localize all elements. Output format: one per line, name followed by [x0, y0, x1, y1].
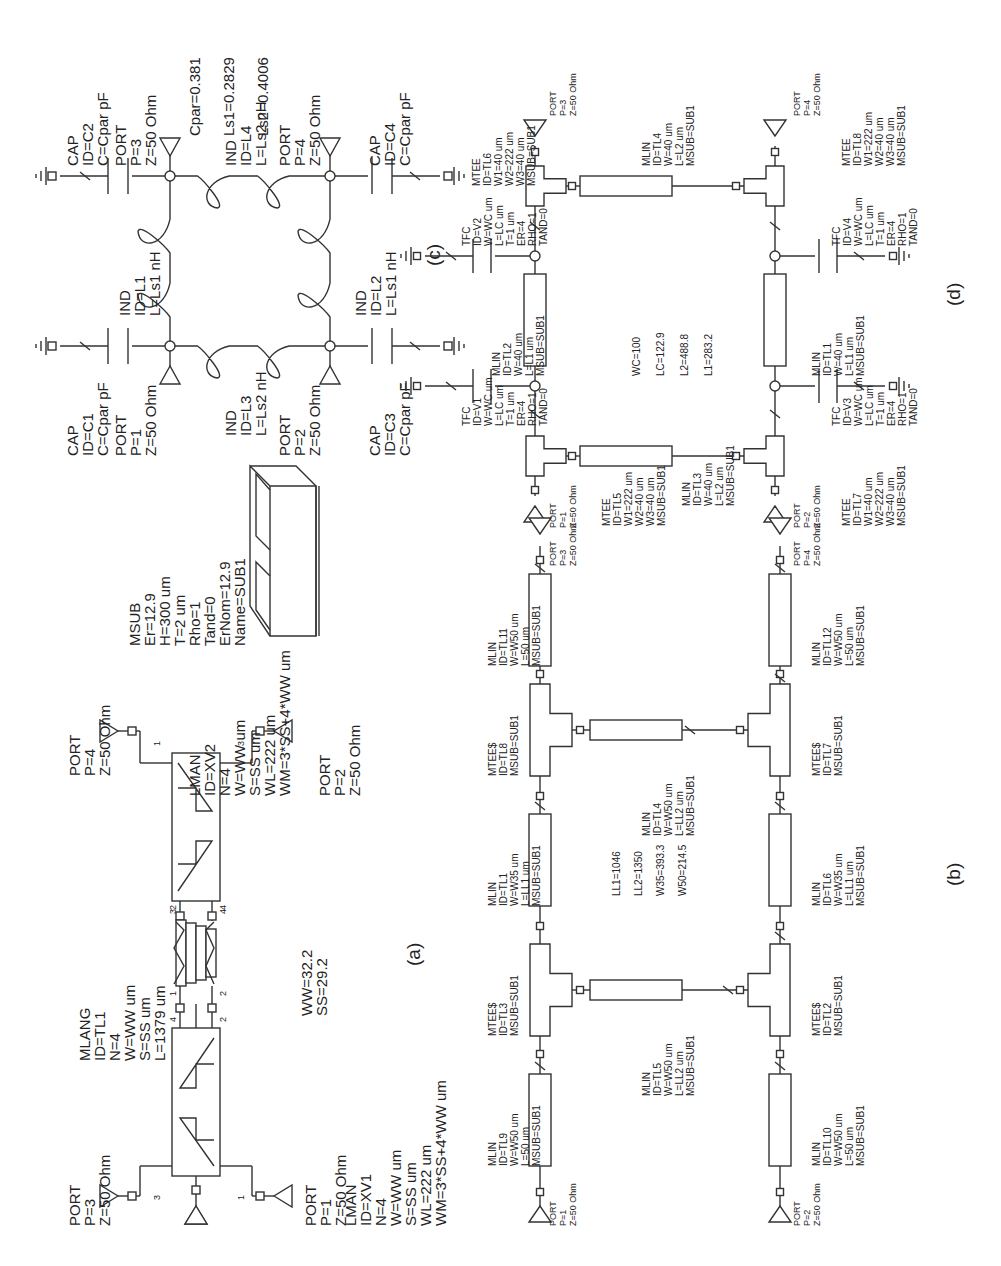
label-line: L=Ls1 nH: [146, 251, 163, 316]
label-line: L=L2 um: [674, 127, 685, 166]
label-line: LC=122.9: [655, 332, 666, 376]
label-line: Z=50 Ohm: [346, 725, 363, 796]
label-line: W=WC um: [853, 377, 864, 426]
label-line: MSUB=SUB1: [531, 1105, 542, 1166]
label-line: LL1=1046: [611, 851, 622, 896]
mtee-tl3-label: MTEE$ID=TL3MSUB=SUB1: [487, 975, 520, 1036]
label-line: MSUB=SUB1: [531, 605, 542, 666]
label-line: C=Cpar pF: [94, 92, 111, 166]
label-line: MLIN: [641, 812, 652, 836]
label-line: W1=40 um: [493, 137, 504, 186]
label-line: Z=50 Ohm: [812, 1183, 822, 1226]
label-line: P=1: [558, 512, 568, 528]
label-line: MLIN: [681, 482, 692, 506]
label-line: MSUB=SUB1: [685, 1035, 696, 1096]
variables-b: LL1=1046LL2=1350W35=393.3W50=214.5: [611, 844, 688, 896]
label-line: Z=50 Ohm: [96, 1155, 113, 1226]
label-line: L=L1 um: [844, 337, 855, 376]
pin-number: 1: [168, 991, 178, 996]
port-1-label: PORTP=1Z=50 Ohm: [112, 385, 159, 456]
label-line: P=3: [558, 550, 568, 566]
label-line: W2=222 um: [874, 472, 885, 526]
finger: [196, 926, 206, 980]
label-line: MSUB=SUB1: [855, 315, 866, 376]
label-line: MTEE$: [811, 742, 822, 776]
pin-square-icon: [777, 1189, 784, 1196]
junction-node-icon: [325, 341, 335, 351]
mlin-tl4-label: MLINID=TL4W=40 umL=L2 umMSUB=SUB1: [641, 105, 696, 166]
lange-coupler-mlang: [174, 920, 216, 986]
substrate-3d-icon: [250, 466, 319, 636]
label-line: TAND=0: [538, 388, 549, 426]
label-line: W=W35 um: [833, 853, 844, 906]
mtee-tl7-icon: [744, 436, 784, 476]
pin-number: 2: [218, 1017, 228, 1022]
cap-c2-label: CAPID=C2C=Cpar pF: [64, 92, 111, 166]
label-line: MSUB=SUB1: [531, 845, 542, 906]
pin-square-icon: [890, 383, 897, 390]
port-3-label: PORTP=3Z=50 Ohm: [548, 73, 578, 116]
port-icon: [160, 366, 180, 384]
label-line: ID=V3: [842, 397, 853, 426]
label-line: ID=TL2: [502, 342, 513, 376]
label-line: Z=50 Ohm: [812, 73, 822, 116]
pin-square-icon: [537, 557, 544, 564]
label-line: ID=V2: [472, 217, 483, 246]
label-line: Z=50 Ohm: [812, 485, 822, 528]
label-line: L=50 um: [844, 627, 855, 666]
label-line: PORT: [792, 541, 802, 566]
panel-label-a: (a): [403, 943, 424, 966]
ind-l3-label: INDID=L3L=Ls2 nH: [222, 371, 269, 436]
label-line: RHO=1: [897, 392, 908, 426]
pin-square-icon: [772, 149, 779, 156]
junction-node-icon: [325, 171, 335, 181]
label-line: W1=222 um: [623, 472, 634, 526]
port-icon: [769, 1206, 791, 1222]
mlin-tl12-icon: [769, 574, 791, 666]
mlin-tl4-icon: [580, 176, 672, 196]
label-line: RHO=1: [527, 392, 538, 426]
pin-square-icon: [890, 253, 897, 260]
label-line: W=W50 um: [833, 613, 844, 666]
ind-l1-label: INDID=L1L=Ls1 nH: [116, 251, 163, 316]
label-line: W=W50 um: [509, 1113, 520, 1166]
label-line: W50=214.5: [677, 844, 688, 896]
label-line: MTEE$: [811, 1002, 822, 1036]
label-line: Z=50 Ohm: [568, 523, 578, 566]
port-2-label: PORTP=2Z=50 Ohm: [276, 385, 323, 456]
pin-number: 2: [168, 905, 178, 910]
port-2-label: PORTP=2Z=50 Ohm: [316, 725, 363, 796]
port-4-label: PORTP=4Z=50 Ohm: [276, 95, 323, 166]
label-line: L=LL1 um: [844, 861, 855, 906]
inductor-icon: [298, 181, 330, 341]
label-line: Z=50 Ohm: [306, 95, 323, 166]
label-line: W35=393.3: [655, 844, 666, 896]
label-line: WM=3*SS+4*WW um: [276, 650, 293, 796]
label-line: W=WC um: [853, 197, 864, 246]
pin-square-icon: [414, 253, 421, 260]
label-line: ID=TL7: [822, 742, 833, 776]
junction-node-icon: [770, 381, 780, 391]
ind-l2-label: INDID=L2L=Ls1 nH: [352, 251, 399, 316]
pin-number: 4: [218, 905, 228, 910]
figure-canvas: 314212342413PORTP=3Z=50 OhmPORTP=1Z=50 O…: [0, 0, 1001, 1266]
tfc-v4-label: TFCID=V4W=WC umL=LC umT=1 umER=4RHO=1TAN…: [831, 197, 919, 246]
label-line: W=40 um: [663, 123, 674, 166]
pin-square-icon: [414, 383, 421, 390]
mtee-tl6-label: MTEEID=TL6W1=40 umW2=222 umW3=40 umMSUB=…: [471, 125, 537, 186]
label-line: MSUB=SUB1: [725, 445, 736, 506]
mtee-tl8-label: MTEE$ID=TL8MSUB=SUB1: [487, 715, 520, 776]
label-line: L=50 um: [520, 1127, 531, 1166]
port-icon: [160, 138, 180, 156]
port-icon: [769, 518, 791, 534]
mlin-tl1-icon: [764, 274, 786, 366]
ground-icon: [454, 337, 464, 355]
port-icon: [274, 1185, 292, 1207]
label-line: W=W50 um: [663, 783, 674, 836]
inductor-icon: [175, 176, 325, 208]
label-line: L=L1 um: [524, 337, 535, 376]
junction-node-icon: [770, 251, 780, 261]
label-line: Cpar=0.381: [186, 57, 203, 136]
pin-square-icon: [192, 1186, 200, 1194]
finger: [186, 923, 196, 983]
